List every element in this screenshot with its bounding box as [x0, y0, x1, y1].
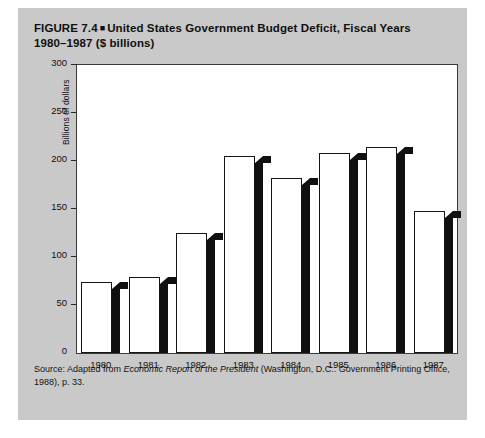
bar-shadow-top	[302, 178, 318, 185]
plot-area: Billions of dollars 050100150200250300 1…	[76, 64, 458, 354]
y-tick: 100	[47, 256, 77, 257]
y-tick-label: 0	[62, 345, 67, 356]
y-tick-label: 50	[56, 297, 67, 308]
y-tick-label: 300	[51, 57, 67, 68]
y-tick-label: 150	[51, 201, 67, 212]
bar-shadow-top	[112, 282, 128, 289]
bar-shadow	[255, 163, 263, 353]
bar-body	[176, 233, 207, 353]
bar	[271, 178, 310, 353]
bar-shadow-top	[397, 147, 413, 154]
bar	[319, 153, 358, 353]
bar	[366, 147, 405, 353]
bar-shadow	[302, 185, 310, 353]
figure-title: FIGURE 7.4■United States Government Budg…	[34, 21, 454, 51]
bar-shadow	[160, 284, 168, 353]
bar-shadow	[397, 154, 405, 353]
bar	[176, 233, 215, 353]
bar-body	[224, 156, 255, 353]
y-tick-label: 200	[51, 153, 67, 164]
bar	[81, 282, 120, 353]
y-tick: 300	[47, 64, 77, 65]
bar-body	[271, 178, 302, 353]
y-axis-title: Billions of dollars	[61, 15, 71, 145]
figure-title-line1: United States Government Budget Deficit,…	[107, 22, 411, 34]
y-tick: 150	[47, 208, 77, 209]
bar-shadow-top	[350, 153, 366, 160]
bar-shadow-top	[207, 233, 223, 240]
bar-shadow	[207, 240, 215, 353]
bar-shadow	[350, 160, 358, 353]
bar-body	[129, 277, 160, 353]
source-prefix: Source: Adapted from	[34, 364, 124, 374]
bar	[129, 277, 168, 353]
source-italic-title: Economic Report of the President	[124, 364, 259, 374]
y-tick: 50	[47, 304, 77, 305]
bar-body	[366, 147, 397, 353]
y-tick: 250	[47, 112, 77, 113]
figure-title-line2: 1980–1987 ($ billions)	[34, 37, 154, 49]
bar-shadow-top	[255, 156, 271, 163]
y-tick-label: 250	[51, 105, 67, 116]
bar-shadow-top	[160, 277, 176, 284]
y-tick: 0	[47, 352, 77, 353]
source-note: Source: Adapted from Economic Report of …	[34, 363, 452, 388]
bar	[414, 211, 453, 353]
y-tick: 200	[47, 160, 77, 161]
figure-panel: FIGURE 7.4■United States Government Budg…	[18, 8, 467, 420]
y-tick-label: 100	[51, 249, 67, 260]
bar-body	[414, 211, 445, 353]
bar-shadow	[445, 218, 453, 353]
bar-shadow-top	[445, 211, 461, 218]
bar-shadow	[112, 289, 120, 353]
bar-body	[81, 282, 112, 353]
bar	[224, 156, 263, 353]
bar-body	[319, 153, 350, 353]
square-bullet-icon: ■	[98, 23, 108, 33]
bars-layer	[77, 65, 457, 353]
